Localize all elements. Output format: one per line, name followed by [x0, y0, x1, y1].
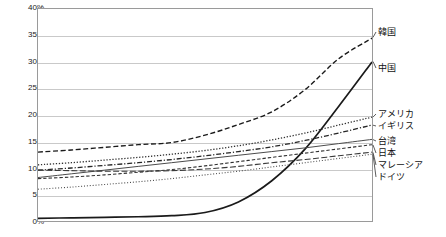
series-line — [38, 139, 372, 177]
series-line — [38, 38, 372, 152]
leader-line — [373, 140, 376, 141]
series-label-マレーシア: マレーシア — [378, 161, 423, 170]
series-line — [38, 125, 372, 170]
series-label-台湾: 台湾 — [378, 137, 396, 146]
leader-line — [373, 32, 376, 37]
series-line — [38, 152, 372, 171]
leader-line — [373, 155, 376, 177]
series-label-韓国: 韓国 — [378, 28, 396, 37]
series-label-アメリカ: アメリカ — [378, 110, 414, 119]
series-line — [38, 62, 372, 218]
leader-line — [373, 125, 376, 126]
series-label-日本: 日本 — [378, 149, 396, 158]
leader-line — [373, 114, 376, 117]
series-lines — [38, 9, 372, 221]
line-chart: 40%35%30%25%20%15%10%5%0% 韓国中国アメリカイギリス台湾… — [0, 0, 446, 237]
series-label-イギリス: イギリス — [378, 122, 414, 131]
leader-line — [373, 62, 376, 69]
series-line — [38, 145, 372, 179]
series-label-中国: 中国 — [378, 64, 396, 73]
series-label-ドイツ: ドイツ — [378, 173, 405, 182]
plot-area — [37, 8, 373, 222]
leader-line — [373, 152, 376, 165]
leader-line — [373, 145, 376, 153]
